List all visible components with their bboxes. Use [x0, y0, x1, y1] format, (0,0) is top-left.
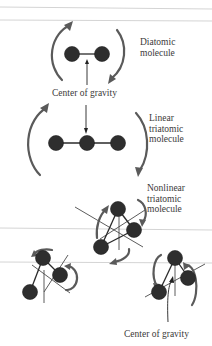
nonlinear-triatomic-left: [23, 249, 78, 303]
label-linear-triatomic-molecule: Linear triatomic molecule: [149, 113, 184, 145]
label-center-of-gravity-bottom: Center of gravity: [124, 329, 189, 340]
rotation-arrow: [97, 209, 106, 238]
atom: [23, 285, 38, 300]
atom: [127, 223, 142, 238]
center-pointer: [168, 280, 172, 322]
molecular-rotation-figure: Diatomic molecule Center of gravity Line…: [0, 0, 212, 346]
atom: [168, 251, 183, 266]
atom: [94, 240, 109, 255]
nonlinear-triatomic-right: [145, 251, 205, 323]
atom: [111, 136, 126, 151]
atom: [181, 271, 196, 286]
rotation-arrow-right: [136, 113, 147, 170]
label-diatomic-molecule: Diatomic molecule: [140, 37, 175, 58]
atom: [111, 202, 126, 217]
rotation-arrow-left: [28, 108, 46, 175]
rotation-arrow: [66, 266, 77, 290]
atom: [65, 47, 80, 62]
atom: [80, 136, 95, 151]
figure-canvas: [0, 0, 212, 346]
linear-triatomic-molecule: [28, 103, 147, 177]
nonlinear-triatomic-center: [75, 200, 146, 265]
label-nonlinear-triatomic-molecule: Nonlinear triatomic molecule: [147, 183, 185, 215]
atom: [49, 136, 64, 151]
label-center-of-gravity-top: Center of gravity: [52, 88, 117, 99]
rotation-arrow: [138, 200, 146, 222]
diatomic-molecule: [52, 21, 124, 85]
atom: [152, 285, 167, 300]
atom: [95, 47, 110, 62]
rotation-arrow: [154, 255, 161, 286]
rotation-arrow-right: [112, 30, 124, 78]
atom: [53, 268, 68, 283]
atom: [36, 251, 51, 266]
